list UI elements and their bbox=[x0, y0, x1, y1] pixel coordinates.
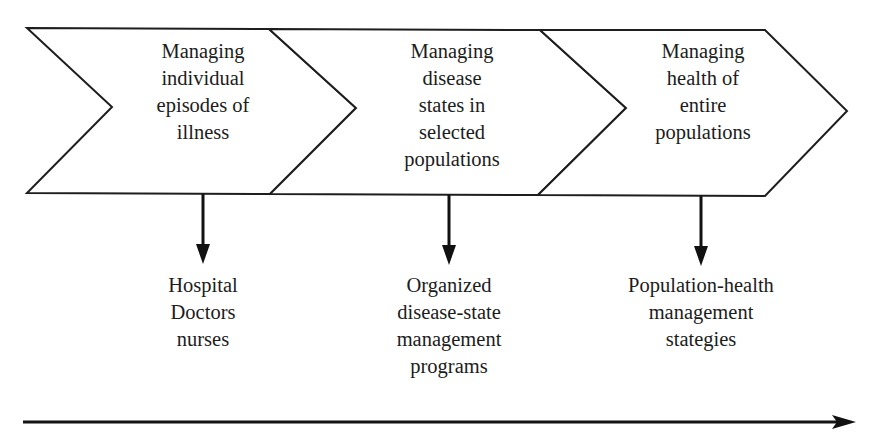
stage-3-outcome: Population-health management stategies bbox=[601, 272, 801, 353]
stage-1-title-line: episodes of bbox=[129, 92, 277, 119]
stage-2-title-line: states in bbox=[376, 92, 528, 119]
stage-2-title-line: Managing bbox=[376, 38, 528, 65]
stage-1-down-arrow-icon bbox=[196, 194, 210, 264]
stage-2-outcome-line: programs bbox=[364, 353, 534, 380]
stage-3-title-line: entire bbox=[630, 92, 776, 119]
stage-1-outcome-line: Doctors bbox=[128, 299, 278, 326]
stage-3-title-line: health of bbox=[630, 65, 776, 92]
stage-3-down-arrow-icon bbox=[694, 196, 708, 266]
stage-3-title: Managing health of entire populations bbox=[630, 38, 776, 146]
stage-3-title-line: Managing bbox=[630, 38, 776, 65]
stage-1-outcome-line: Hospital bbox=[128, 272, 278, 299]
stage-1-outcome-line: nurses bbox=[128, 326, 278, 353]
stage-1-title-line: individual bbox=[129, 65, 277, 92]
stage-3-title-line: populations bbox=[630, 119, 776, 146]
stage-2-outcome: Organized disease-state management progr… bbox=[364, 272, 534, 380]
stage-1-title: Managing individual episodes of illness bbox=[129, 38, 277, 146]
timeline-right-arrow-icon bbox=[23, 415, 856, 429]
stage-2-down-arrow-icon bbox=[442, 195, 456, 265]
stage-1-title-line: Managing bbox=[129, 38, 277, 65]
stage-1-title-line: illness bbox=[129, 119, 277, 146]
stage-2-title-line: disease bbox=[376, 65, 528, 92]
stage-1-outcome: Hospital Doctors nurses bbox=[128, 272, 278, 353]
stage-2-outcome-line: Organized bbox=[364, 272, 534, 299]
stage-2-title: Managing disease states in selected popu… bbox=[376, 38, 528, 173]
stage-2-title-line: selected bbox=[376, 119, 528, 146]
stage-3-outcome-line: Population-health bbox=[601, 272, 801, 299]
stage-2-outcome-line: disease-state bbox=[364, 299, 534, 326]
stage-3-outcome-line: management bbox=[601, 299, 801, 326]
stage-2-outcome-line: management bbox=[364, 326, 534, 353]
stage-2-title-line: populations bbox=[376, 146, 528, 173]
stage-3-outcome-line: stategies bbox=[601, 326, 801, 353]
